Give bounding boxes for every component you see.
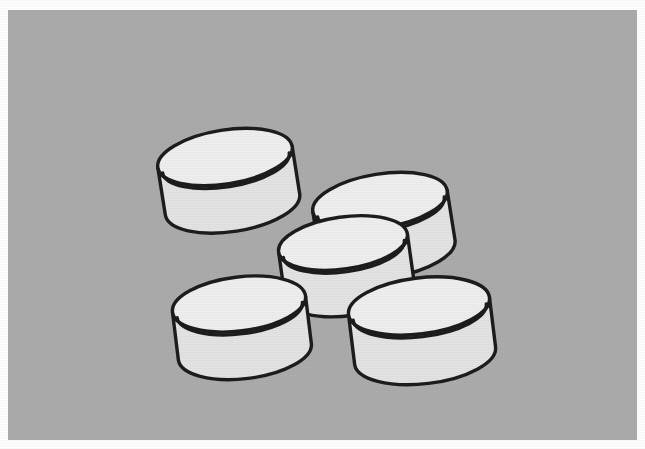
- line-drawing-svg: [0, 0, 645, 449]
- image-canvas: [0, 0, 645, 449]
- artboard: [0, 0, 645, 449]
